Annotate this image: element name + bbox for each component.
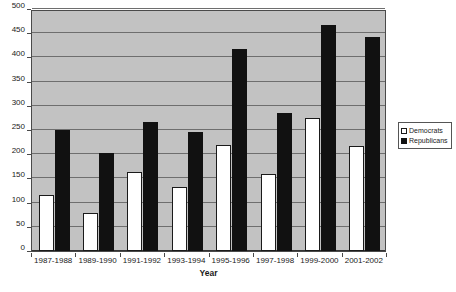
- x-tick-label: 1995-1996: [212, 256, 250, 265]
- bar-republicans-1987-1988: [55, 130, 70, 251]
- y-tick-label: 0: [21, 244, 25, 252]
- legend-item-republicans: Republicans: [401, 136, 448, 145]
- x-tick-mark: [253, 253, 254, 257]
- bar-group: [210, 11, 254, 251]
- bar-group: [32, 11, 76, 251]
- bar-republicans-2001-2002: [365, 37, 380, 251]
- bar-group: [121, 11, 165, 251]
- bar-democrats-1997-1998: [261, 174, 276, 251]
- legend-swatch-republicans-icon: [401, 138, 407, 144]
- bar-democrats-1989-1990: [83, 213, 98, 251]
- y-axis: 050100150200250300350400450500: [0, 10, 31, 252]
- bars-layer: [32, 11, 385, 251]
- x-tick-label: 1989-1990: [78, 256, 116, 265]
- y-tick-label: 350: [12, 75, 25, 83]
- bar-republicans-1993-1994: [188, 132, 203, 251]
- legend-label-republicans: Republicans: [409, 137, 448, 145]
- x-tick-label: 2001-2002: [345, 256, 383, 265]
- x-tick-label: 1991-1992: [123, 256, 161, 265]
- y-tick-label: 100: [12, 196, 25, 204]
- bar-group: [298, 11, 342, 251]
- y-tick-label: 200: [12, 147, 25, 155]
- y-tick-label: 150: [12, 171, 25, 179]
- y-tick-label: 300: [12, 99, 25, 107]
- y-tick-label: 250: [12, 123, 25, 131]
- bar-group: [165, 11, 209, 251]
- bar-republicans-1997-1998: [277, 113, 292, 251]
- bar-republicans-1991-1992: [143, 122, 158, 251]
- y-tick-label: 450: [12, 26, 25, 34]
- x-tick-mark: [297, 253, 298, 257]
- bar-group: [76, 11, 120, 251]
- x-tick-label: 1993-1994: [167, 256, 205, 265]
- chart-legend: Democrats Republicans: [398, 122, 452, 149]
- x-tick-mark: [386, 253, 387, 257]
- bar-republicans-1995-1996: [232, 49, 247, 251]
- bar-democrats-1987-1988: [39, 195, 54, 251]
- y-tick-label: 500: [12, 2, 25, 10]
- bar-republicans-1999-2000: [321, 25, 336, 251]
- x-tick-mark: [75, 253, 76, 257]
- x-tick-label: 1987-1988: [34, 256, 72, 265]
- x-tick-mark: [342, 253, 343, 257]
- legend-swatch-democrats-icon: [401, 128, 407, 134]
- bar-democrats-1991-1992: [127, 172, 142, 251]
- bar-republicans-1989-1990: [99, 153, 114, 251]
- x-tick-mark: [164, 253, 165, 257]
- bar-group: [254, 11, 298, 251]
- bar-democrats-2001-2002: [349, 146, 364, 251]
- x-tick-label: 1997-1998: [256, 256, 294, 265]
- x-tick-mark: [120, 253, 121, 257]
- plot-area: [31, 10, 386, 252]
- gridline: [32, 8, 385, 9]
- x-axis: 1987-19881989-19901991-19921993-19941995…: [31, 253, 386, 269]
- bar-democrats-1995-1996: [216, 145, 231, 251]
- x-tick-mark: [209, 253, 210, 257]
- y-tick-label: 400: [12, 50, 25, 58]
- x-axis-title: Year: [31, 268, 386, 278]
- bar-group: [343, 11, 387, 251]
- bar-democrats-1993-1994: [172, 187, 187, 251]
- legend-item-democrats: Democrats: [401, 126, 448, 135]
- bar-democrats-1999-2000: [305, 118, 320, 251]
- y-tick-label: 50: [16, 220, 25, 228]
- x-tick-label: 1999-2000: [300, 256, 338, 265]
- legend-label-democrats: Democrats: [409, 127, 443, 135]
- bar-chart: 050100150200250300350400450500 1987-1988…: [0, 0, 456, 292]
- x-tick-mark: [31, 253, 32, 257]
